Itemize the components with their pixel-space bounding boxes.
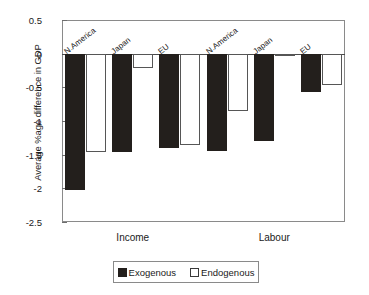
legend-label: Exogenous xyxy=(129,267,177,278)
bar-endogenous-namerica-income xyxy=(86,54,106,152)
bar-exogenous-japan-labour xyxy=(254,54,274,141)
y-tick-label: -1 xyxy=(2,116,42,127)
legend: ExogenousEndogenous xyxy=(113,261,259,283)
bar-endogenous-japan-labour xyxy=(275,54,295,57)
bar-chart: Average %age difference in GDP 0.50-0.5-… xyxy=(0,0,369,295)
y-tick-mark xyxy=(62,222,67,223)
bar-endogenous-japan-income xyxy=(133,54,153,69)
y-tick-label: -1.5 xyxy=(2,149,42,160)
bar-endogenous-eu-labour xyxy=(322,54,342,86)
y-tick-label: 0 xyxy=(2,48,42,59)
hollow-square-icon xyxy=(190,268,199,277)
bar-endogenous-namerica-labour xyxy=(228,54,248,111)
y-tick-mark xyxy=(62,20,67,21)
bar-exogenous-japan-income xyxy=(112,54,132,152)
bar-endogenous-eu-income xyxy=(180,54,200,146)
legend-label: Endogenous xyxy=(201,267,254,278)
y-tick-label: -2 xyxy=(2,183,42,194)
legend-entry-endogenous: Endogenous xyxy=(190,267,254,278)
y-tick-label: -2.5 xyxy=(2,217,42,228)
group-label-labour: Labour xyxy=(259,232,290,243)
bar-exogenous-eu-labour xyxy=(301,54,321,92)
bar-exogenous-namerica-income xyxy=(65,54,85,190)
y-tick-label: -0.5 xyxy=(2,82,42,93)
bar-exogenous-namerica-labour xyxy=(207,54,227,151)
legend-entry-exogenous: Exogenous xyxy=(118,267,177,278)
group-label-income: Income xyxy=(116,232,149,243)
bar-exogenous-eu-income xyxy=(159,54,179,148)
y-tick-label: 0.5 xyxy=(2,15,42,26)
filled-square-icon xyxy=(118,268,127,277)
